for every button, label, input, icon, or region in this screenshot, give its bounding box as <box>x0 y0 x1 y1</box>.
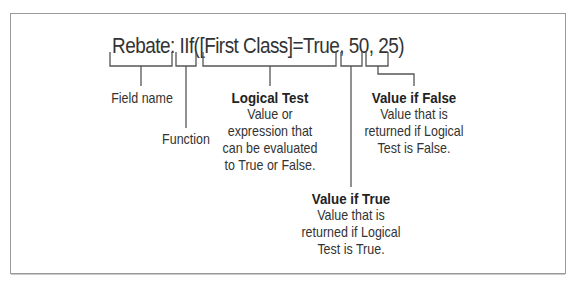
logical-test-bracket <box>203 52 336 66</box>
value-if-true-line: Test is True. <box>295 241 407 258</box>
value-if-false-line: returned if Logical <box>358 123 470 140</box>
logical-test-line: expression that <box>210 123 330 140</box>
value-if-false-title: Value if False <box>358 89 470 106</box>
value-if-false-leader <box>378 66 414 86</box>
value-if-true-line: Value that is <box>295 207 407 224</box>
value-if-true-title: Value if True <box>295 190 407 207</box>
logical-test-line: can be evaluated <box>210 140 330 157</box>
value-if-true-line: returned if Logical <box>295 224 407 241</box>
value-if-false-bracket <box>366 52 388 66</box>
logical-test-line: Value or <box>210 106 330 123</box>
field-bracket <box>110 52 172 66</box>
logical-test-title: Logical Test <box>210 89 330 106</box>
logical-test-line: to True or False. <box>210 157 330 174</box>
label-logical-test: Logical Test Value or expression that ca… <box>210 89 330 174</box>
label-field-name: Field name <box>90 90 193 107</box>
value-if-false-line: Test is False. <box>358 140 470 157</box>
label-value-if-true: Value if True Value that is returned if … <box>295 190 407 258</box>
value-if-true-bracket <box>341 52 362 66</box>
field-name-title: Field name <box>90 90 193 107</box>
function-bracket <box>176 52 196 66</box>
label-value-if-false: Value if False Value that is returned if… <box>358 89 470 157</box>
value-if-false-line: Value that is <box>358 106 470 123</box>
